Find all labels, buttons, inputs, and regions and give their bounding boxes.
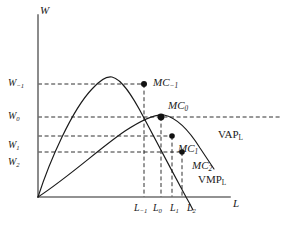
wage-label-w-1: W1 xyxy=(8,140,20,150)
wage-label-w-0: W0 xyxy=(8,111,20,121)
vap-l-curve xyxy=(38,115,214,197)
mc-label-mc-0: MC0 xyxy=(168,100,188,111)
wage-label-w-minus1: W−1 xyxy=(8,78,24,88)
mc-point-mc-0 xyxy=(158,114,165,121)
wage-label-w-2: W2 xyxy=(8,157,20,167)
labour-label-l-minus1: L−1 xyxy=(134,203,147,213)
x-axis-label: L xyxy=(233,198,239,209)
mc-label-mc-1: MC1 xyxy=(178,143,198,154)
curve-label-vap-l: VAPL xyxy=(218,129,243,140)
labour-label-l-0: L0 xyxy=(153,203,162,213)
labour-label-l-1: L1 xyxy=(170,203,179,213)
mc-point-mc-minus1 xyxy=(141,81,147,87)
curve-label-vmp-l: VMPL xyxy=(198,174,226,185)
economics-figure-canvas: W L W−1 W0 W1 W2 L−1 L0 L1 L2 MC−1 MC0 M… xyxy=(0,0,281,234)
vmp-l-curve xyxy=(38,77,193,210)
y-axis-label: W xyxy=(40,5,49,16)
mc-label-mc-minus1: MC−1 xyxy=(153,77,178,88)
mc-label-mc-2: MC2 xyxy=(192,160,212,171)
labour-label-l-2: L2 xyxy=(187,203,196,213)
mc-point-mc-1 xyxy=(169,133,175,139)
